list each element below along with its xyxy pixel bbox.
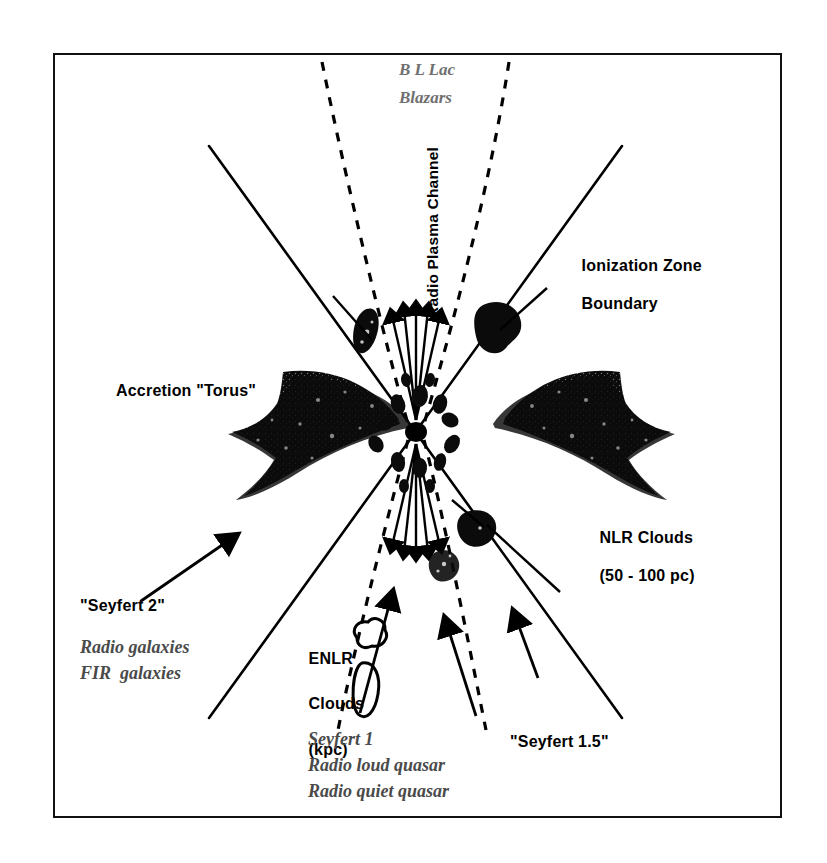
label-seyfert-2: "Seyfert 2" xyxy=(80,597,165,616)
nlr-clouds-line1: NLR Clouds xyxy=(600,529,694,546)
figure-page: B L Lac Blazars Radio Plasma Channel Ion… xyxy=(0,0,827,863)
label-fir-galaxies: FIR galaxies xyxy=(80,663,181,684)
enlr-line2: Clouds xyxy=(309,695,364,712)
enlr-line1: ENLR xyxy=(309,650,353,667)
label-seyfert-1: Seyfert 1 xyxy=(308,729,373,750)
label-blazars: Blazars xyxy=(399,88,452,108)
label-radio-quiet-quasar: Radio quiet quasar xyxy=(308,781,449,802)
nlr-clouds-line2: (50 - 100 pc) xyxy=(600,567,695,584)
label-seyfert-15: "Seyfert 1.5" xyxy=(510,733,609,752)
label-ionization-zone-boundary: Ionization Zone Boundary xyxy=(563,238,702,332)
label-radio-plasma-channel: Radio Plasma Channel xyxy=(424,147,442,318)
ionization-zone-line1: Ionization Zone xyxy=(582,257,702,274)
ionization-zone-line2: Boundary xyxy=(582,295,658,312)
label-radio-loud-quasar: Radio loud quasar xyxy=(308,755,445,776)
central-black-hole xyxy=(405,422,427,442)
label-radio-galaxies: Radio galaxies xyxy=(80,637,190,658)
label-accretion-torus: Accretion "Torus" xyxy=(116,382,256,401)
diagram-canvas xyxy=(0,0,827,863)
label-bl-lac: B L Lac xyxy=(399,60,455,80)
label-nlr-clouds: NLR Clouds (50 - 100 pc) xyxy=(581,510,695,604)
